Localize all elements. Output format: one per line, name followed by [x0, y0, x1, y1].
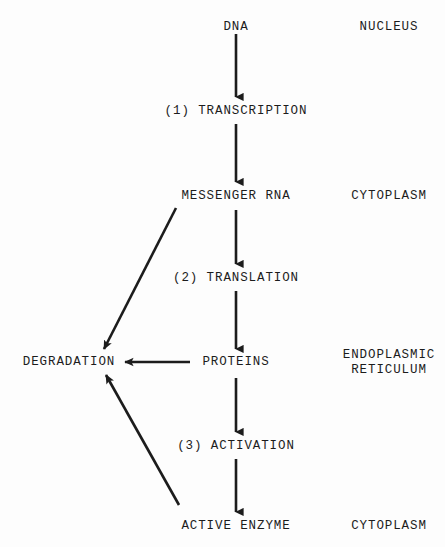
compartment-er-line-2: RETICULUM	[343, 363, 435, 378]
node-active-enzyme: ACTIVE ENZYME	[181, 519, 290, 534]
node-step-1-transcription: (1) TRANSCRIPTION	[165, 104, 308, 119]
compartment-cytoplasm-lower: CYTOPLASM	[351, 519, 427, 534]
edge-active-enzyme-to-degradation	[106, 375, 179, 505]
pathway-diagram: DNA (1) TRANSCRIPTION MESSENGER RNA (2) …	[0, 0, 445, 547]
node-dna: DNA	[223, 20, 248, 35]
compartment-cytoplasm-upper: CYTOPLASM	[351, 189, 427, 204]
edge-mrna-to-degradation	[104, 208, 176, 349]
node-proteins: PROTEINS	[202, 355, 269, 370]
node-degradation: DEGRADATION	[23, 355, 115, 370]
compartment-er-line-1: ENDOPLASMIC	[343, 348, 435, 362]
node-step-2-translation: (2) TRANSLATION	[173, 271, 299, 286]
node-messenger-rna: MESSENGER RNA	[181, 189, 290, 204]
compartment-nucleus: NUCLEUS	[360, 20, 419, 35]
compartment-endoplasmic-reticulum: ENDOPLASMIC RETICULUM	[343, 348, 435, 378]
node-step-3-activation: (3) ACTIVATION	[177, 439, 295, 454]
